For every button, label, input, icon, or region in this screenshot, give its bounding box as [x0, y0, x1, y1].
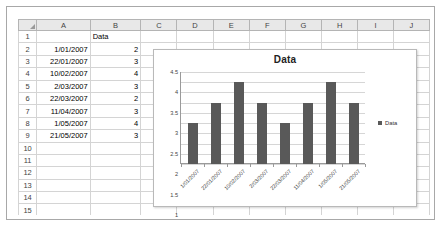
x-axis-tick	[250, 164, 251, 167]
cell-b12[interactable]	[90, 167, 141, 179]
row-header-7[interactable]: 7	[19, 105, 37, 117]
chart-gridline: 1	[181, 144, 365, 145]
x-axis-tick	[296, 164, 297, 167]
cell-a12[interactable]	[37, 167, 90, 179]
cell-e1[interactable]	[213, 31, 249, 43]
chart-gridline: 2.5	[181, 113, 365, 114]
chart-title: Data	[154, 54, 416, 65]
cell-a10[interactable]	[37, 142, 90, 154]
cell-a4[interactable]: 10/02/2007	[37, 68, 90, 80]
chart-gridline: 2	[181, 123, 365, 124]
row-header-2[interactable]: 2	[19, 43, 37, 55]
table-row[interactable]: 1 Data	[19, 31, 430, 43]
row-header-5[interactable]: 5	[19, 80, 37, 92]
cell-a2[interactable]: 1/01/2007	[37, 43, 90, 55]
cell-b13[interactable]	[90, 179, 141, 191]
embedded-bar-chart[interactable]: Data 00.511.522.533.544.51/01/200722/01/…	[153, 49, 417, 207]
cell-a3[interactable]: 22/01/2007	[37, 55, 90, 67]
column-header-f[interactable]: F	[249, 20, 285, 31]
y-axis-tick-label: 4	[175, 89, 178, 95]
chart-bar[interactable]	[257, 103, 267, 164]
cell-b3[interactable]: 3	[90, 55, 141, 67]
cell-b14[interactable]	[90, 192, 141, 204]
column-header-c[interactable]: C	[141, 20, 177, 31]
cell-b7[interactable]: 3	[90, 105, 141, 117]
cell-b5[interactable]: 3	[90, 80, 141, 92]
column-header-row: A B C D E F G H I J	[19, 20, 430, 31]
cell-c1[interactable]	[141, 31, 177, 43]
x-axis-tick-label: 11/04/2007	[292, 168, 315, 191]
select-all-triangle-icon	[30, 24, 35, 29]
cell-a1[interactable]	[37, 31, 90, 43]
cell-a11[interactable]	[37, 154, 90, 166]
chart-bar[interactable]	[211, 103, 221, 164]
y-axis-tick-label: 1.5	[170, 192, 178, 198]
y-axis-tick-label: 3	[175, 130, 178, 136]
row-header-4[interactable]: 4	[19, 68, 37, 80]
cell-b15[interactable]	[90, 204, 141, 215]
column-header-i[interactable]: I	[358, 20, 394, 31]
chart-bar[interactable]	[188, 123, 198, 164]
chart-gridline: 3.5	[181, 92, 365, 93]
y-axis-tick-label: 1	[175, 212, 178, 218]
cell-f1[interactable]	[249, 31, 285, 43]
column-header-g[interactable]: G	[285, 20, 321, 31]
select-all-corner[interactable]	[19, 20, 37, 31]
cell-a9[interactable]: 21/05/2007	[37, 130, 90, 142]
row-header-6[interactable]: 6	[19, 92, 37, 104]
row-header-1[interactable]: 1	[19, 31, 37, 43]
column-header-b[interactable]: B	[90, 20, 141, 31]
cell-a6[interactable]: 22/03/2007	[37, 92, 90, 104]
cell-b11[interactable]	[90, 154, 141, 166]
chart-bar[interactable]	[349, 103, 359, 164]
legend-swatch-data	[378, 121, 382, 125]
x-axis-tick	[181, 164, 182, 167]
cell-i1[interactable]	[358, 31, 394, 43]
cell-b8[interactable]: 4	[90, 117, 141, 129]
x-axis-tick-label: 1/01/2007	[179, 168, 200, 189]
row-header-15[interactable]: 15	[19, 204, 37, 215]
x-axis-tick	[365, 164, 366, 167]
cell-b9[interactable]: 3	[90, 130, 141, 142]
x-axis-tick-label: 10/02/2007	[222, 168, 245, 191]
row-header-10[interactable]: 10	[19, 142, 37, 154]
chart-bar[interactable]	[326, 82, 336, 164]
cell-d1[interactable]	[177, 31, 213, 43]
row-header-9[interactable]: 9	[19, 130, 37, 142]
cell-a7[interactable]: 11/04/2007	[37, 105, 90, 117]
cell-g1[interactable]	[285, 31, 321, 43]
column-header-d[interactable]: D	[177, 20, 213, 31]
cell-b4[interactable]: 4	[90, 68, 141, 80]
cell-a14[interactable]	[37, 192, 90, 204]
cell-h1[interactable]	[322, 31, 358, 43]
cell-a15[interactable]	[37, 204, 90, 215]
column-header-h[interactable]: H	[322, 20, 358, 31]
row-header-14[interactable]: 14	[19, 192, 37, 204]
chart-plot-area: 00.511.522.533.544.51/01/200722/01/20071…	[181, 72, 365, 164]
cell-b1[interactable]: Data	[90, 31, 141, 43]
cell-j1[interactable]	[393, 31, 429, 43]
y-axis-tick-label: 2	[175, 171, 178, 177]
cell-b2[interactable]: 2	[90, 43, 141, 55]
x-axis-tick	[227, 164, 228, 167]
column-header-a[interactable]: A	[37, 20, 90, 31]
chart-bar[interactable]	[234, 82, 244, 164]
column-header-j[interactable]: J	[393, 20, 429, 31]
row-header-12[interactable]: 12	[19, 167, 37, 179]
cell-b10[interactable]	[90, 142, 141, 154]
cell-a5[interactable]: 2/03/2007	[37, 80, 90, 92]
row-header-11[interactable]: 11	[19, 154, 37, 166]
row-header-13[interactable]: 13	[19, 179, 37, 191]
cell-a13[interactable]	[37, 179, 90, 191]
y-axis-tick-label: 4.5	[170, 69, 178, 75]
column-header-e[interactable]: E	[213, 20, 249, 31]
cell-b6[interactable]: 2	[90, 92, 141, 104]
x-axis-tick	[319, 164, 320, 167]
row-header-3[interactable]: 3	[19, 55, 37, 67]
chart-bar[interactable]	[303, 103, 313, 164]
row-header-8[interactable]: 8	[19, 117, 37, 129]
y-axis-tick-label: 2.5	[170, 151, 178, 157]
chart-bar[interactable]	[280, 123, 290, 164]
cell-a8[interactable]: 1/05/2007	[37, 117, 90, 129]
x-axis-tick-label: 22/03/2007	[268, 168, 291, 191]
